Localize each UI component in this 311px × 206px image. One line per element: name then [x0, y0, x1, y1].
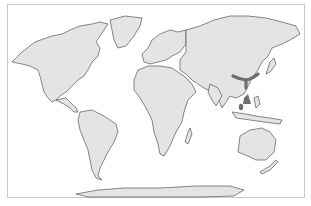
central-america	[56, 98, 78, 112]
world-map	[0, 0, 311, 206]
indonesia	[232, 112, 282, 124]
madagascar	[185, 128, 192, 144]
australia	[238, 128, 276, 160]
north-america	[12, 22, 108, 102]
japan	[266, 58, 276, 74]
asia	[180, 16, 300, 108]
greenland	[110, 16, 142, 48]
south-america	[78, 110, 118, 180]
europe	[142, 30, 186, 64]
antarctica	[76, 186, 244, 197]
new-zealand	[260, 160, 278, 174]
philippines	[254, 96, 260, 108]
